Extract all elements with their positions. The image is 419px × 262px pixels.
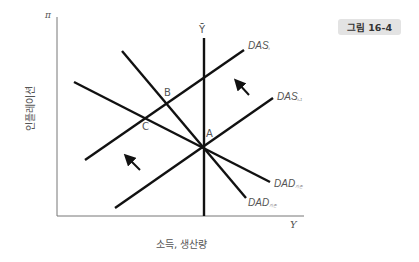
x-axis-symbol: Y [290,219,297,230]
potential-output-label: Ȳ [199,24,205,35]
dad-steep-label: DAD기존 [248,197,277,208]
arrow-icon [128,158,140,170]
figure: 그림 16-4 인플레이션 소득, 생산량 π Y Ȳ A B C DASt D… [0,0,419,262]
arrow-icon [238,83,249,95]
das-t-label: DASt [248,40,270,51]
das-t-line [85,50,244,160]
point-c-label: C [142,121,149,132]
figure-number-badge: 그림 16-4 [338,19,401,35]
das-t1-label: DASt-1 [277,91,302,102]
point-b-label: B [164,87,171,98]
y-axis-label: 인플레이션 [22,86,37,131]
point-a-label: A [206,128,213,139]
y-axis-symbol: π [45,10,51,20]
x-axis-label: 소득, 생산량 [156,236,207,251]
dad-steep-line [122,51,246,198]
dad-flat-label: DAD기존 [274,178,303,189]
